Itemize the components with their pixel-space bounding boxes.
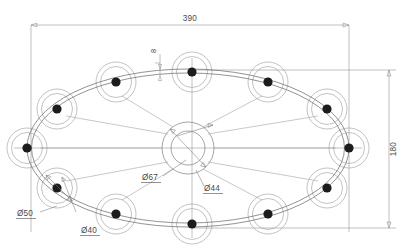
node-dot (111, 77, 120, 86)
node-dot (322, 104, 331, 113)
dimension-overall-height-label: 180 (389, 142, 398, 157)
dimension-overall-height: 180 (387, 70, 398, 228)
node-dot (263, 209, 272, 218)
callout-hub-outer-diameter-label: Ø67 (142, 173, 158, 182)
dimension-rail-thickness: 8 (149, 49, 162, 81)
callout-hub-inner-diameter: Ø44 (196, 170, 223, 194)
drawing-svg: 390 180 8 (0, 0, 416, 246)
node-dot (22, 143, 31, 152)
node-dot (52, 183, 61, 192)
extension-lines (31, 25, 396, 232)
technical-drawing-canvas: 390 180 8 (0, 0, 416, 246)
callout-node-inner-diameter-label: Ø40 (81, 226, 97, 235)
node-dot (111, 209, 120, 218)
node-dot (187, 67, 196, 76)
node-dot (187, 219, 196, 228)
callout-node-outer-diameter: Ø50 (16, 206, 57, 219)
callout-hub-inner-diameter-label: Ø44 (204, 184, 220, 193)
node-dot (52, 104, 61, 113)
callout-node-outer-diameter-label: Ø50 (17, 209, 33, 218)
node-dot (263, 77, 272, 86)
node-dot (344, 143, 353, 152)
callout-node-inner-diameter: Ø40 (80, 226, 100, 236)
dimension-rail-thickness-label: 8 (149, 49, 158, 53)
dimension-overall-width-label: 390 (183, 14, 198, 23)
callout-hub-outer-diameter: Ø67 (141, 160, 186, 183)
dimension-overall-width: 390 (31, 14, 349, 27)
node-dot (322, 183, 331, 192)
